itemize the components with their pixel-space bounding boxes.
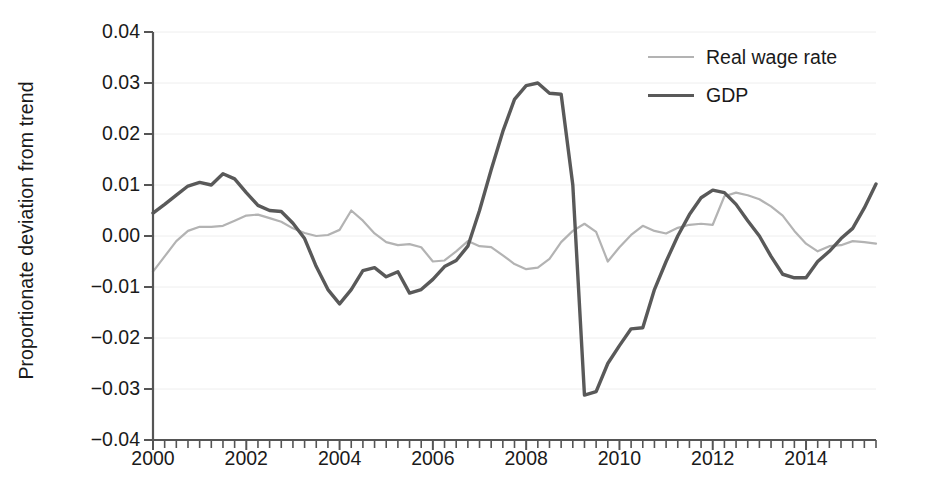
legend-label-real-wage-rate: Real wage rate bbox=[706, 46, 837, 69]
y-tick-label: 0.04 bbox=[44, 22, 140, 42]
x-tick-label: 2010 bbox=[598, 449, 641, 469]
y-axis-tick-labels: 0.040.030.020.010.00−0.01−0.02−0.03−0.04 bbox=[44, 0, 140, 495]
legend-item-gdp: GDP bbox=[648, 76, 918, 114]
data-series-layer bbox=[153, 83, 876, 395]
x-axis-tick-labels: 20002002200420062008201020122014 bbox=[0, 449, 932, 479]
y-tick-label: −0.02 bbox=[44, 328, 140, 348]
y-axis-ticks bbox=[144, 32, 153, 440]
legend-item-real-wage-rate: Real wage rate bbox=[648, 38, 918, 76]
x-tick-label: 2002 bbox=[225, 449, 268, 469]
y-tick-label: −0.01 bbox=[44, 277, 140, 297]
x-tick-label: 2008 bbox=[504, 449, 547, 469]
x-tick-label: 2012 bbox=[691, 449, 734, 469]
x-tick-label: 2014 bbox=[784, 449, 827, 469]
series-line-gdp bbox=[153, 83, 876, 395]
y-tick-label: 0.03 bbox=[44, 73, 140, 93]
series-line-real-wage-rate bbox=[153, 193, 876, 272]
chart-figure: Proportionate deviation from trend 0.040… bbox=[0, 0, 932, 495]
legend-label-gdp: GDP bbox=[706, 84, 748, 107]
x-tick-label: 2006 bbox=[411, 449, 454, 469]
y-tick-label: −0.03 bbox=[44, 379, 140, 399]
y-tick-label: 0.00 bbox=[44, 226, 140, 246]
legend-swatch-gdp bbox=[648, 94, 694, 97]
y-tick-label: 0.02 bbox=[44, 124, 140, 144]
legend-swatch-real-wage-rate bbox=[648, 56, 694, 58]
x-tick-label: 2004 bbox=[318, 449, 361, 469]
y-tick-label: −0.04 bbox=[44, 430, 140, 450]
x-tick-label: 2000 bbox=[131, 449, 174, 469]
chart-legend: Real wage rate GDP bbox=[648, 38, 918, 114]
y-axis-title: Proportionate deviation from trend bbox=[15, 81, 38, 379]
y-tick-label: 0.01 bbox=[44, 175, 140, 195]
